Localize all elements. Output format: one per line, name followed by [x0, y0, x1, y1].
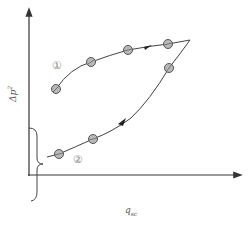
x-axis-label: qsc [125, 205, 137, 217]
curve-1-label: ① [52, 59, 62, 72]
y-axis-label: Δp2 [6, 86, 18, 102]
curve-2 [47, 40, 190, 157]
curve-1-direction-arrow-icon [144, 45, 152, 50]
curve-2-label: ② [73, 153, 83, 166]
intercept-brace-icon [29, 128, 43, 201]
diagram-canvas [0, 0, 248, 227]
curve-1-markers [52, 40, 173, 94]
curve-2-markers [55, 64, 174, 159]
